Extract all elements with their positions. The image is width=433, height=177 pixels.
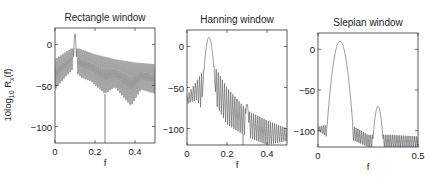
spectrum-line: [318, 41, 418, 147]
plot-canvas: [0, 0, 433, 177]
spectrum-line: [187, 37, 287, 145]
axes-box: [318, 33, 418, 147]
